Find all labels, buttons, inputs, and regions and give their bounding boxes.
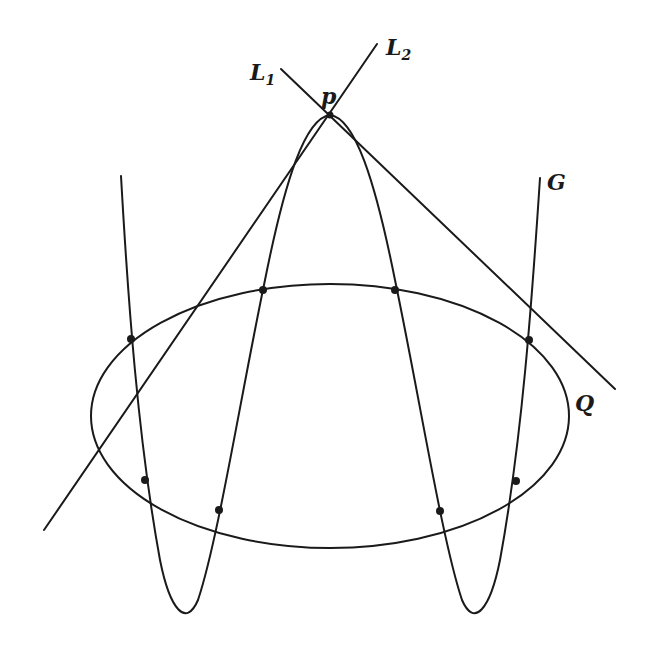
curve-g — [121, 115, 540, 613]
geometry-diagram: L1 L2 p G Q — [0, 0, 653, 650]
intersection-dot — [512, 477, 520, 485]
point-p-dot — [327, 112, 334, 119]
label-q: Q — [575, 390, 594, 416]
intersection-dot — [127, 335, 135, 343]
intersection-dot — [391, 286, 399, 294]
label-l1: L1 — [249, 59, 275, 88]
conic-q — [91, 284, 569, 548]
label-l2: L2 — [385, 34, 411, 63]
intersection-dot — [141, 476, 149, 484]
intersection-dot — [436, 507, 444, 515]
line-l2 — [44, 44, 377, 530]
label-p: p — [321, 83, 337, 109]
intersection-dot — [525, 336, 533, 344]
label-g: G — [547, 169, 566, 195]
intersection-dot — [215, 506, 223, 514]
intersection-dot — [259, 286, 267, 294]
